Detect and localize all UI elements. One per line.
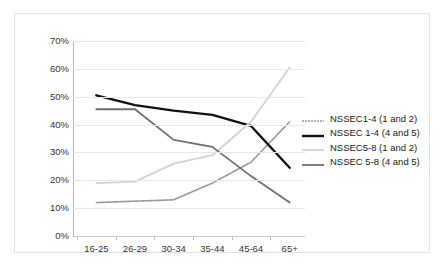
x-axis-tick-label: 35-44 bbox=[190, 244, 234, 254]
y-axis-tick-label: 40% bbox=[29, 120, 69, 130]
x-axis-tick-label: 16-25 bbox=[74, 244, 118, 254]
gridline bbox=[73, 208, 305, 209]
legend-item[interactable]: NSSEC1-4 (1 and 2) bbox=[302, 111, 442, 126]
y-axis-labels: 0%10%20%30%40%50%60%70% bbox=[25, 14, 69, 254]
legend-item[interactable]: NSSEC 1-4 (4 and 5) bbox=[302, 126, 442, 141]
y-axis-tick-label: 10% bbox=[29, 203, 69, 213]
legend-item[interactable]: NSSEC5-8 (1 and 2) bbox=[302, 140, 442, 155]
y-axis-tick-label: 30% bbox=[29, 147, 69, 157]
x-axis-tick-label: 45-64 bbox=[229, 244, 273, 254]
y-axis-tick-label: 0% bbox=[29, 231, 69, 241]
gridline bbox=[73, 125, 305, 126]
gridline bbox=[73, 97, 305, 98]
gridline bbox=[73, 69, 305, 70]
x-axis-tick-mark bbox=[232, 236, 233, 240]
series-line bbox=[96, 95, 289, 167]
x-axis-tick-mark bbox=[154, 236, 155, 240]
legend-label: NSSEC5-8 (1 and 2) bbox=[330, 142, 417, 153]
x-axis-tick-mark bbox=[270, 236, 271, 240]
legend-item[interactable]: NSSEC 5-8 (4 and 5) bbox=[302, 155, 442, 170]
chart-legend: NSSEC1-4 (1 and 2)NSSEC 1-4 (4 and 5)NSS… bbox=[302, 111, 442, 169]
gridline bbox=[73, 152, 305, 153]
series-line bbox=[96, 122, 289, 203]
x-axis-tick-label: 26-29 bbox=[113, 244, 157, 254]
y-axis-tick-label: 70% bbox=[29, 36, 69, 46]
chart-container: 0%10%20%30%40%50%60%70% 16-2526-2930-343… bbox=[14, 13, 430, 253]
x-axis-tick-label: 65+ bbox=[268, 244, 312, 254]
x-axis-tick-mark bbox=[77, 236, 78, 240]
series-lines bbox=[73, 41, 305, 236]
x-axis-tick-mark bbox=[193, 236, 194, 240]
gridline bbox=[73, 41, 305, 42]
legend-label: NSSEC 1-4 (4 and 5) bbox=[330, 127, 420, 138]
x-axis-tick-mark bbox=[116, 236, 117, 240]
y-axis-tick-label: 50% bbox=[29, 92, 69, 102]
series-line bbox=[96, 109, 289, 202]
legend-label: NSSEC 5-8 (4 and 5) bbox=[330, 156, 420, 167]
plot-area bbox=[73, 41, 305, 236]
x-axis-tick-label: 30-34 bbox=[152, 244, 196, 254]
y-axis-tick-label: 60% bbox=[29, 64, 69, 74]
legend-label: NSSEC1-4 (1 and 2) bbox=[330, 113, 417, 124]
y-axis-tick-label: 20% bbox=[29, 175, 69, 185]
gridline bbox=[73, 180, 305, 181]
